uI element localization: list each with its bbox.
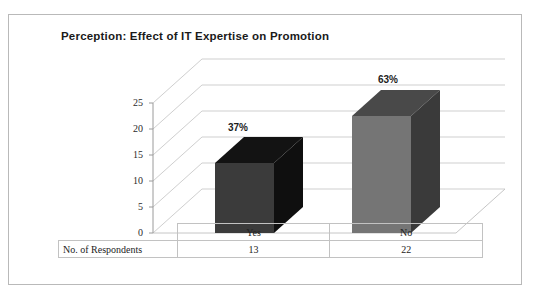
gridline-group-depth <box>153 59 202 233</box>
y-tick-label-20: 20 <box>117 123 143 134</box>
depth-line-5 <box>153 163 202 207</box>
y-tick-label-25: 25 <box>117 97 143 108</box>
depth-line-20 <box>153 85 202 129</box>
table-corner-cell <box>59 224 178 241</box>
table-header-yes: Yes <box>177 224 330 241</box>
figure-frame: Perception: Effect of IT Expertise on Pr… <box>8 14 522 285</box>
y-axis <box>149 103 153 233</box>
table-row-header: No. of Respondents <box>59 241 178 258</box>
table-row-categories: Yes No <box>59 224 483 241</box>
bar-no-front-face <box>352 116 411 233</box>
table-cell-yes: 13 <box>177 241 330 258</box>
y-tick-label-15: 15 <box>117 149 143 160</box>
y-tick-label-10: 10 <box>117 175 143 186</box>
table-row-respondents: No. of Respondents 13 22 <box>59 241 483 258</box>
y-tick-label-5: 5 <box>117 201 143 212</box>
bar-label-no: 63% <box>378 74 398 85</box>
depth-line-10 <box>153 137 202 181</box>
bar-yes[interactable] <box>215 137 303 233</box>
depth-line-15 <box>153 111 202 155</box>
data-table: Yes No No. of Respondents 13 22 <box>58 223 483 258</box>
bar-no[interactable] <box>352 90 440 233</box>
depth-line-25 <box>153 59 202 103</box>
bar-label-yes: 37% <box>228 122 248 133</box>
table-header-no: No <box>330 224 483 241</box>
table-cell-no: 22 <box>330 241 483 258</box>
